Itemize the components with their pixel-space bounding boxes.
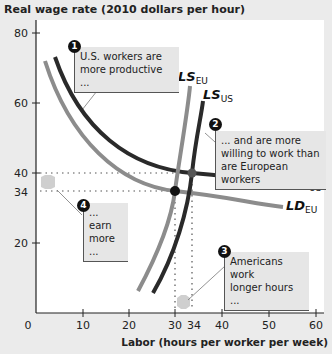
callout-number-2: 2	[209, 118, 222, 131]
wage-gap-marker	[41, 175, 55, 189]
callout-3: Americans work longer hours ...	[224, 252, 309, 311]
svg-text:80: 80	[14, 27, 28, 40]
svg-text:60: 60	[14, 97, 28, 110]
svg-text:10: 10	[76, 319, 90, 332]
svg-text:34: 34	[14, 186, 28, 199]
x-axis-title: Labor (hours per worker per week)	[121, 336, 328, 348]
ls-us-label: LSUS	[203, 87, 233, 104]
svg-text:20: 20	[122, 319, 136, 332]
callout-4: ... earn more ...	[83, 203, 128, 262]
callout-2: ... and are more willing to work than ar…	[215, 131, 326, 190]
callout-number-4: 4	[77, 199, 90, 212]
svg-text:50: 50	[262, 319, 276, 332]
us-equilibrium-point	[188, 169, 197, 178]
svg-text:60: 60	[309, 319, 323, 332]
ls-eu-label: LSEU	[178, 69, 208, 86]
svg-text:30: 30	[168, 319, 182, 332]
svg-text:34: 34	[187, 319, 201, 332]
svg-text:20: 20	[14, 237, 28, 250]
callout-number-1: 1	[68, 40, 81, 53]
svg-text:40: 40	[215, 319, 229, 332]
eu-equilibrium-point	[170, 186, 180, 196]
svg-text:0: 0	[25, 319, 32, 332]
svg-text:40: 40	[14, 167, 28, 180]
callout-number-3: 3	[218, 245, 231, 258]
callout-1: U.S. workers are more productive ...	[74, 47, 179, 93]
hours-gap-marker	[177, 295, 190, 309]
ld-eu-label: LDEU	[286, 198, 317, 215]
